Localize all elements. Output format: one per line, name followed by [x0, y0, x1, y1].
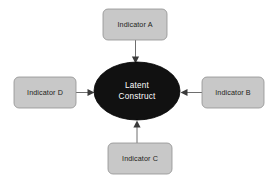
- indicator-c-label: Indicator C: [122, 154, 158, 163]
- indicator-d-label: Indicator D: [27, 88, 63, 97]
- arrowhead-c: [133, 121, 140, 128]
- indicator-d-node[interactable]: Indicator D: [14, 77, 76, 108]
- construct-ellipse-shape: [94, 62, 180, 120]
- indicator-a-label: Indicator A: [117, 20, 152, 29]
- arrow-d-to-construct: [76, 89, 95, 96]
- indicator-c-node[interactable]: Indicator C: [108, 143, 172, 174]
- construct-label-line1: Latent: [125, 81, 149, 90]
- latent-construct-diagram: Latent Construct Indicator A Indicator B…: [0, 0, 279, 180]
- arrow-b-to-construct: [181, 89, 203, 96]
- diagram-canvas: Latent Construct Indicator A Indicator B…: [0, 0, 279, 180]
- indicator-b-node[interactable]: Indicator B: [202, 77, 264, 108]
- construct-label-line2: Construct: [119, 92, 156, 101]
- arrowhead-d: [88, 89, 95, 96]
- arrowhead-b: [181, 89, 188, 96]
- indicator-b-label: Indicator B: [215, 88, 251, 97]
- indicator-a-node[interactable]: Indicator A: [103, 9, 167, 40]
- latent-construct-node[interactable]: Latent Construct: [94, 62, 180, 120]
- arrow-c-to-construct: [133, 121, 140, 144]
- arrow-a-to-construct: [132, 40, 139, 64]
